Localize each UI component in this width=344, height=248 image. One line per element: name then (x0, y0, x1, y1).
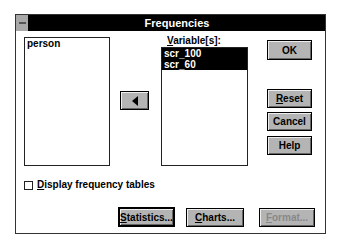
format-button[interactable]: Format... (259, 208, 315, 227)
help-button[interactable]: Help (267, 136, 312, 155)
source-variable-list[interactable]: person (24, 37, 110, 166)
list-item[interactable]: scr_100 (162, 48, 247, 59)
title-bar: Frequencies (16, 15, 325, 31)
list-item[interactable]: scr_60 (162, 59, 247, 70)
list-item[interactable]: person (25, 38, 109, 49)
statistics-button[interactable]: Statistics... (118, 207, 175, 227)
charts-button[interactable]: Charts... (186, 208, 244, 227)
ok-button[interactable]: OK (267, 40, 312, 60)
reset-button[interactable]: Reset (267, 89, 312, 108)
window-title: Frequencies (29, 15, 325, 31)
selected-variables-list[interactable]: scr_100 scr_60 (161, 47, 248, 166)
variables-label: Variable[s]: (167, 35, 221, 46)
display-frequency-tables-checkbox[interactable] (24, 181, 33, 190)
system-menu-icon[interactable] (16, 15, 29, 31)
frequencies-dialog: Frequencies person Variable[s]: scr_100 … (15, 14, 326, 234)
left-arrow-icon (132, 96, 138, 106)
cancel-button[interactable]: Cancel (267, 112, 312, 131)
display-frequency-tables-label[interactable]: Display frequency tables (37, 179, 155, 190)
move-variable-button[interactable] (120, 91, 149, 110)
